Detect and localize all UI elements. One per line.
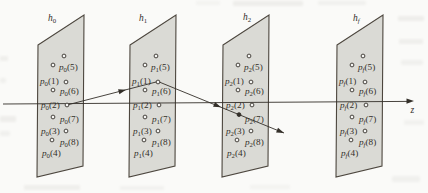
particle-point [350,115,354,119]
scan-noise-blob [0,56,8,61]
point-label: pf(6) [358,86,376,97]
point-label-index: (4) [142,148,153,158]
particle-point [64,129,68,133]
scan-noise-blob [24,185,80,190]
point-label-index: (3) [346,126,357,136]
scan-noise-blob [0,131,10,136]
scan-noise-blob [398,16,424,21]
scan-noise-blob [196,1,220,5]
scan-noise-blob [318,1,366,5]
particle-point [235,138,239,142]
particle-point [364,103,368,107]
point-label: p2(7) [244,114,264,125]
point-label-index: (1) [345,76,356,86]
point-label: pf(4) [340,148,358,159]
z-axis-arrowhead [406,98,414,103]
z-axis-label: z [410,105,415,115]
figure-page: h0h1h2hf z p0(5)p0(1)p0(6)p0(2)p0(7)p0(3… [0,0,428,193]
point-label-index: (5) [67,62,78,72]
ray-arrowhead [118,87,127,94]
point-label: p2(3) [225,126,245,137]
particle-point [50,138,54,142]
point-label: p1(8) [151,137,171,148]
point-label: p0(1) [39,76,59,87]
scan-noise-blob [233,1,303,6]
point-label-index: (1) [140,76,151,86]
scan-noise-blob [250,185,290,189]
point-label-index: (6) [160,86,171,96]
point-label: p1(4) [133,148,153,159]
point-label-index: (6) [365,86,376,96]
point-label-index: (8) [365,137,376,147]
point-label: p1(6) [151,86,171,97]
particle-point [65,103,69,107]
point-label: p2(4) [226,148,246,159]
point-label-index: (7) [160,114,171,124]
point-label-index: (2) [141,100,152,110]
point-label: p0(7) [59,114,79,125]
point-label-index: (8) [160,137,171,147]
point-label: pf(5) [357,62,375,73]
point-label: p2(1) [224,76,244,87]
point-label-index: (2) [346,100,357,110]
plane-label-subscript: 1 [144,17,147,24]
point-label-index: (4) [235,148,246,158]
point-label: p2(8) [244,137,264,148]
point-label: pf(8) [358,137,376,148]
particle-point [51,63,55,67]
point-label: p1(7) [151,114,171,125]
point-label-index: (3) [234,126,245,136]
point-label-index: (5) [364,62,375,72]
point-label-index: (6) [253,86,264,96]
particle-point [349,138,353,142]
point-label-index: (4) [347,148,358,158]
particle-point [62,54,66,58]
point-label-index: (8) [68,137,79,147]
point-label: pf(2) [339,100,357,111]
plane-label: h0 [48,13,57,24]
point-label-index: (5) [159,62,170,72]
particle-point [143,115,147,119]
point-label: p0(2) [40,100,60,111]
point-label-index: (2) [234,100,245,110]
point-label: p1(2) [132,100,152,111]
particle-point [156,80,160,84]
point-label-index: (2) [49,100,60,110]
scan-noise-blob [399,39,423,44]
particle-point [143,63,147,67]
scan-noise-blob [0,116,16,122]
point-label-index: (3) [49,126,60,136]
particle-point [247,54,251,58]
plane-label-subscript: f [358,17,361,24]
plane-label: h1 [139,13,147,24]
point-label: p1(5) [150,62,170,73]
particle-point [157,103,161,107]
particle-point [363,129,367,133]
plane-label-subscript: 2 [248,16,252,23]
scan-noise-blob [401,60,423,65]
point-label: p1(1) [131,76,151,87]
particle-point [350,63,354,67]
particle-point [156,129,160,133]
plane-label: hf [353,13,361,24]
point-label: p0(4) [41,148,61,159]
particle-point [154,54,158,58]
point-label: pf(3) [339,126,357,137]
ray-crossing-point [237,113,241,117]
particle-point [64,80,68,84]
particle-point [350,88,354,92]
point-label-index: (7) [365,114,376,124]
points-layer: p0(5)p0(1)p0(6)p0(2)p0(7)p0(3)p0(8)p0(4)… [39,54,376,159]
point-label: p1(3) [132,126,152,137]
particle-point [249,129,253,133]
ray-arrowhead [276,128,285,136]
point-label-index: (6) [68,86,79,96]
point-label-index: (7) [68,114,79,124]
plane-label-subscript: 0 [53,17,57,24]
point-label: p0(5) [58,62,78,73]
particle-point [363,80,367,84]
particle-point [51,88,55,92]
particle-point [249,80,253,84]
point-label-index: (1) [48,76,59,86]
particle-point [361,54,365,58]
